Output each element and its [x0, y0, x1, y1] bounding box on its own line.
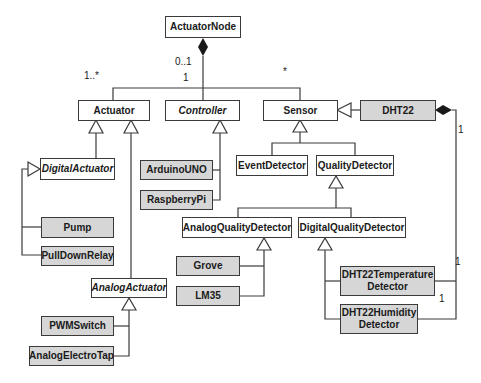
class-dht22-humidity-detector: DHT22Humidity Detector	[340, 304, 418, 334]
class-raspberry-pi: RaspberryPi	[140, 190, 213, 210]
multiplicity-temperature-end: 1	[455, 256, 461, 267]
class-controller: Controller	[165, 100, 240, 121]
multiplicity-node-controller-bottom: 1	[183, 72, 189, 83]
class-dht22: DHT22	[360, 100, 436, 121]
class-analog-electro-tap: AnalogElectroTap	[29, 346, 114, 366]
class-pwm-switch: PWMSwitch	[41, 316, 114, 336]
composition-diamond-actuator-node	[198, 38, 208, 56]
multiplicity-node-sensor: *	[283, 66, 287, 77]
composition-diamond-dht22	[435, 105, 452, 115]
class-digital-actuator: DigitalActuator	[40, 158, 115, 180]
class-pull-down-relay: PullDownRelay	[41, 246, 114, 266]
class-quality-detector: QualityDetector	[316, 155, 394, 176]
class-analog-actuator: AnalogActuator	[91, 278, 167, 298]
class-lm35: LM35	[176, 286, 240, 306]
multiplicity-node-actuator: 1..*	[84, 70, 99, 81]
class-grove: Grove	[176, 256, 240, 276]
class-arduino-uno: ArduinoUNO	[140, 160, 213, 180]
class-actuator: Actuator	[78, 100, 150, 121]
multiplicity-humidity-end: 1	[439, 293, 445, 304]
class-digital-quality-detector: DigitalQualityDetector	[298, 217, 406, 238]
class-dht22-temperature-detector: DHT22Temperature Detector	[340, 266, 435, 296]
class-analog-quality-detector: AnalogQualityDetector	[182, 217, 292, 238]
multiplicity-node-controller-top: 0..1	[175, 56, 192, 67]
class-sensor: Sensor	[263, 100, 338, 121]
multiplicity-dht22-side: 1	[458, 124, 464, 135]
class-actuator-node: ActuatorNode	[165, 16, 241, 38]
class-pump: Pump	[41, 217, 114, 238]
class-event-detector: EventDetector	[236, 155, 308, 176]
